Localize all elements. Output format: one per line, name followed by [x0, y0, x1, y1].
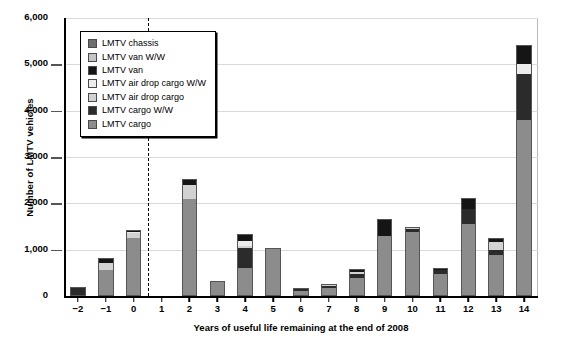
legend-item-label: LMTV van W/W: [102, 53, 165, 62]
x-tick-label: 12: [454, 303, 482, 314]
bar-2[interactable]: [126, 230, 142, 296]
y-tick-label: 0: [43, 289, 48, 300]
bar-segment: [462, 224, 476, 295]
bar-segment: [211, 282, 225, 295]
y-tick-mark: [51, 64, 62, 66]
bar-segment: [378, 220, 392, 236]
legend-item: LMTV air drop cargo W/W: [88, 77, 206, 90]
legend-item: LMTV air drop cargo: [88, 91, 206, 104]
x-tick-mark: [440, 298, 442, 302]
bar-15[interactable]: [488, 238, 504, 296]
legend-item: LMTV cargo W/W: [88, 104, 206, 117]
chart-legend: LMTV chassisLMTV van W/WLMTV vanLMTV air…: [80, 31, 216, 137]
bar-5[interactable]: [210, 281, 226, 296]
bar-segment: [238, 248, 252, 268]
bar-segment: [489, 255, 503, 295]
bar-16[interactable]: [516, 45, 532, 296]
bar-segment: [517, 46, 531, 64]
x-tick-label: 6: [287, 303, 315, 314]
bar-segment: [238, 268, 252, 295]
x-tick-mark: [468, 298, 470, 302]
bar-segment: [517, 120, 531, 295]
y-tick-label: 4,000: [24, 104, 48, 115]
x-tick-mark: [217, 298, 219, 302]
legend-item: LMTV van: [88, 64, 206, 77]
bar-6[interactable]: [237, 234, 253, 296]
bar-segment: [127, 238, 141, 295]
bar-4[interactable]: [182, 179, 198, 296]
x-tick-label: 13: [482, 303, 510, 314]
x-tick-mark: [523, 298, 525, 302]
y-tick-label: 1,000: [24, 243, 48, 254]
x-tick-mark: [412, 298, 414, 302]
x-tick-label: 7: [315, 303, 343, 314]
bar-10[interactable]: [349, 269, 365, 296]
legend-item: LMTV cargo: [88, 117, 206, 130]
legend-item-label: LMTV van: [102, 66, 143, 75]
bar-14[interactable]: [461, 198, 477, 296]
bar-segment: [517, 64, 531, 74]
bar-segment: [406, 232, 420, 295]
bar-1[interactable]: [98, 258, 114, 296]
x-tick-label: 4: [231, 303, 259, 314]
bar-segment: [183, 185, 197, 199]
bar-9[interactable]: [321, 284, 337, 296]
x-tick-label: 2: [176, 303, 204, 314]
legend-swatch-icon: [88, 39, 97, 48]
y-tick-mark: [51, 203, 62, 205]
x-tick-label: 5: [259, 303, 287, 314]
bar-segment: [489, 242, 503, 250]
y-tick-label: 2,000: [24, 196, 48, 207]
x-tick-label: 3: [203, 303, 231, 314]
x-tick-mark: [328, 298, 330, 302]
bar-segment: [266, 249, 280, 295]
bar-segment: [350, 278, 364, 295]
y-tick-label: 5,000: [24, 57, 48, 68]
legend-item-label: LMTV cargo: [102, 120, 151, 129]
legend-item: LMTV chassis: [88, 37, 206, 50]
bar-segment: [434, 274, 448, 295]
legend-swatch-icon: [88, 79, 97, 88]
bar-8[interactable]: [293, 288, 309, 296]
y-tick-mark: [51, 157, 62, 159]
x-tick-label: 9: [371, 303, 399, 314]
bar-12[interactable]: [405, 227, 421, 297]
y-tick-label: 6,000: [24, 11, 48, 22]
x-tick-mark: [133, 298, 135, 302]
x-tick-mark: [384, 298, 386, 302]
y-tick-label: 3,000: [24, 150, 48, 161]
legend-swatch-icon: [88, 53, 97, 62]
legend-item: LMTV van W/W: [88, 50, 206, 63]
bar-13[interactable]: [433, 268, 449, 296]
bar-segment: [378, 236, 392, 295]
y-tick-mark: [51, 111, 62, 113]
x-tick-label: 14: [510, 303, 538, 314]
y-tick-mark: [51, 250, 62, 252]
legend-swatch-icon: [88, 66, 97, 75]
bar-segment: [294, 291, 308, 295]
x-tick-mark: [244, 298, 246, 302]
x-tick-mark: [77, 298, 79, 302]
x-tick-label: 11: [426, 303, 454, 314]
x-tick-label: −1: [92, 303, 120, 314]
x-tick-mark: [161, 298, 163, 302]
bar-segment: [183, 199, 197, 295]
x-axis-ticks: −2−101234567891011121314: [64, 298, 538, 320]
x-tick-mark: [495, 298, 497, 302]
bar-7[interactable]: [265, 248, 281, 296]
bar-segment: [71, 288, 85, 295]
legend-item-label: LMTV cargo W/W: [102, 106, 173, 115]
bar-11[interactable]: [377, 219, 393, 296]
bar-segment: [99, 270, 113, 295]
x-tick-label: 10: [399, 303, 427, 314]
x-tick-label: 0: [120, 303, 148, 314]
x-tick-label: −2: [64, 303, 92, 314]
bar-0[interactable]: [70, 287, 86, 296]
x-tick-mark: [105, 298, 107, 302]
bar-segment: [517, 74, 531, 120]
chart-figure: Number of LMTV vehicles 01,0002,0003,000…: [0, 0, 562, 340]
bar-segment: [462, 209, 476, 224]
x-tick-mark: [356, 298, 358, 302]
bar-segment: [99, 263, 113, 270]
bar-segment: [322, 288, 336, 295]
